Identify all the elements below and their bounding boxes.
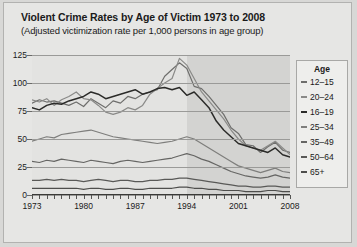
x-axis-tick bbox=[106, 195, 107, 199]
x-axis-tick bbox=[98, 195, 99, 199]
x-axis-tick bbox=[39, 195, 40, 199]
legend-swatch bbox=[301, 156, 307, 158]
x-axis-tick-label: 1973 bbox=[23, 201, 42, 211]
legend-item[interactable]: 20–24 bbox=[301, 92, 334, 102]
chart-title: Violent Crime Rates by Age of Victim 197… bbox=[21, 11, 265, 23]
x-axis-tick bbox=[209, 195, 210, 199]
legend-label: 16–19 bbox=[310, 107, 334, 117]
legend-swatch bbox=[301, 126, 307, 128]
legend-item[interactable]: 16–19 bbox=[301, 107, 334, 117]
x-axis-tick bbox=[231, 195, 232, 199]
x-axis-tick bbox=[253, 195, 254, 199]
legend-label: 25–34 bbox=[310, 122, 334, 132]
series-line bbox=[32, 58, 290, 154]
gridline bbox=[32, 83, 290, 84]
gridline bbox=[32, 139, 290, 140]
gridline bbox=[32, 111, 290, 112]
x-axis-tick bbox=[61, 195, 62, 199]
x-axis-tick bbox=[120, 195, 121, 199]
legend-swatch bbox=[301, 96, 307, 98]
chart-subtitle: (Adjusted victimization rate per 1,000 p… bbox=[21, 25, 263, 36]
x-axis-tick bbox=[113, 195, 114, 199]
y-axis-tick-label: 125 bbox=[4, 50, 27, 60]
y-axis bbox=[4, 55, 29, 195]
x-axis-tick bbox=[91, 195, 92, 199]
legend-swatch bbox=[301, 81, 307, 83]
legend-title: Age bbox=[297, 64, 347, 74]
y-axis-tick bbox=[27, 111, 32, 112]
x-axis-tick bbox=[128, 195, 129, 199]
legend-item[interactable]: 50–64 bbox=[301, 152, 334, 162]
x-axis-tick-label: 2008 bbox=[281, 201, 300, 211]
chart-legend: Age 12–1520–2416–1925–3435–4950–6465+ bbox=[296, 60, 348, 188]
x-axis-line bbox=[32, 194, 290, 195]
chart-frame: Violent Crime Rates by Age of Victim 197… bbox=[3, 2, 352, 243]
y-axis-tick bbox=[27, 55, 32, 56]
gridline bbox=[32, 167, 290, 168]
x-axis-tick bbox=[143, 195, 144, 199]
x-axis-tick bbox=[187, 195, 188, 199]
y-axis-tick bbox=[27, 139, 32, 140]
y-axis-tick-label: 50 bbox=[4, 134, 27, 144]
x-axis-tick-label: 1987 bbox=[126, 201, 145, 211]
x-axis-tick bbox=[238, 195, 239, 199]
gridline bbox=[32, 195, 290, 196]
x-axis-tick bbox=[84, 195, 85, 199]
x-axis-tick bbox=[179, 195, 180, 199]
legend-item[interactable]: 12–15 bbox=[301, 77, 334, 87]
series-lines bbox=[32, 55, 290, 195]
legend-label: 35–49 bbox=[310, 137, 334, 147]
legend-label: 50–64 bbox=[310, 152, 334, 162]
x-axis-tick bbox=[194, 195, 195, 199]
y-axis-tick-label: 100 bbox=[4, 78, 27, 88]
x-axis-tick bbox=[216, 195, 217, 199]
y-axis-tick-label: 75 bbox=[4, 106, 27, 116]
x-axis-tick bbox=[165, 195, 166, 199]
x-axis-tick bbox=[275, 195, 276, 199]
series-line bbox=[32, 87, 290, 156]
x-axis-tick bbox=[290, 195, 291, 199]
series-line bbox=[32, 178, 290, 187]
x-axis-tick bbox=[32, 195, 33, 199]
legend-item[interactable]: 35–49 bbox=[301, 137, 334, 147]
y-axis-tick-label: 0 bbox=[4, 190, 27, 200]
x-axis-tick bbox=[76, 195, 77, 199]
y-axis-tick-label: 25 bbox=[4, 162, 27, 172]
x-axis-tick bbox=[47, 195, 48, 199]
legend-label: 65+ bbox=[310, 167, 324, 177]
legend-item[interactable]: 65+ bbox=[301, 167, 324, 177]
x-axis-tick bbox=[283, 195, 284, 199]
x-axis-tick-label: 2001 bbox=[229, 201, 248, 211]
x-axis-tick bbox=[172, 195, 173, 199]
legend-label: 12–15 bbox=[310, 77, 334, 87]
x-axis-tick bbox=[202, 195, 203, 199]
series-line bbox=[32, 154, 290, 179]
x-axis-tick bbox=[150, 195, 151, 199]
legend-label: 20–24 bbox=[310, 92, 334, 102]
legend-item[interactable]: 25–34 bbox=[301, 122, 334, 132]
x-axis-tick bbox=[54, 195, 55, 199]
x-axis-tick-label: 1994 bbox=[177, 201, 196, 211]
x-axis-tick bbox=[246, 195, 247, 199]
y-axis-tick bbox=[27, 83, 32, 84]
legend-swatch bbox=[301, 141, 307, 143]
x-axis-tick-label: 1980 bbox=[74, 201, 93, 211]
legend-swatch bbox=[301, 111, 307, 113]
legend-swatch bbox=[301, 171, 307, 173]
gridline bbox=[32, 55, 290, 56]
plot-area bbox=[32, 55, 290, 195]
x-axis-tick bbox=[69, 195, 70, 199]
x-axis-tick bbox=[261, 195, 262, 199]
x-axis-tick bbox=[268, 195, 269, 199]
x-axis-tick bbox=[224, 195, 225, 199]
x-axis-tick bbox=[135, 195, 136, 199]
series-line bbox=[32, 187, 290, 191]
y-axis-tick bbox=[27, 167, 32, 168]
x-axis-tick bbox=[157, 195, 158, 199]
